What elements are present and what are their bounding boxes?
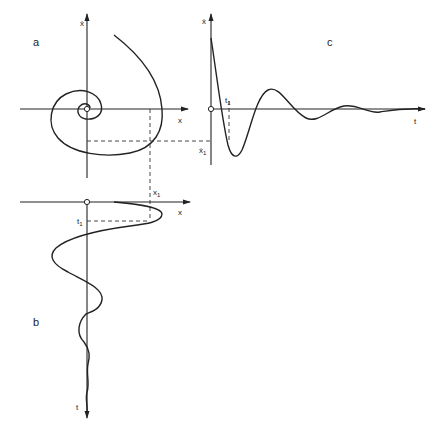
panel-b: b x t x1 t1 (20, 188, 190, 418)
panel-b-label: b (33, 316, 39, 328)
a-x-label: x (178, 116, 182, 125)
b-x1-label: x1 (153, 188, 161, 198)
b-t1-label: t1 (77, 217, 83, 227)
a-origin-marker (84, 106, 89, 111)
velocity-curve (211, 38, 425, 156)
c-t-label: t (414, 117, 417, 126)
c-t1-label: t1 (225, 96, 231, 106)
b-origin-marker (84, 199, 89, 204)
b-x-label: x (178, 208, 182, 217)
panel-c: c ẋ t t1 ẋ1 (199, 14, 425, 165)
phase-spiral (51, 35, 162, 155)
c-origin-marker (208, 106, 213, 111)
c-xdot1-label: ẋ1 (199, 146, 207, 156)
damped-oscillator-diagram: a ẋ x c ẋ t t1 ẋ1 b x t x1 t1 (0, 0, 440, 431)
displacement-curve (52, 202, 162, 412)
panel-a-label: a (33, 36, 40, 48)
c-xdot-label: ẋ (202, 17, 206, 26)
a-xdot-label: ẋ (80, 19, 84, 28)
b-t-label: t (76, 403, 79, 412)
panel-a: a ẋ x (20, 14, 188, 178)
panel-c-label: c (327, 36, 333, 48)
